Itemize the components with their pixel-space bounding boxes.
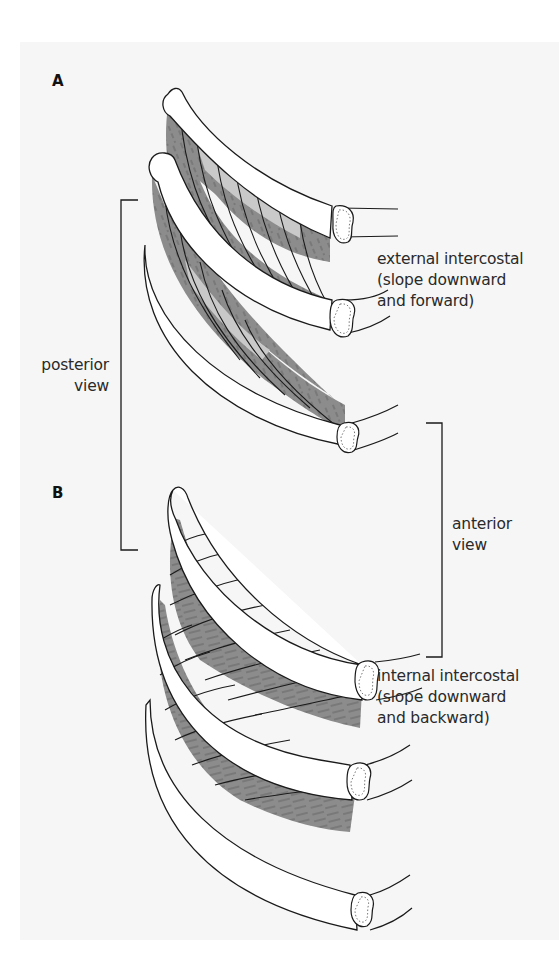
internal-intercostal-label: internal intercostal (slope downward and…: [377, 666, 519, 729]
rib-a3-cut-end: [337, 422, 359, 452]
external-intercostal-label: external intercostal (slope downward and…: [377, 249, 523, 312]
rib-a2-cut-end: [330, 299, 355, 337]
rib-b3-cut-end: [351, 892, 373, 926]
rib-b2-cut-end: [347, 763, 371, 800]
rib-b1-cut-end: [355, 661, 379, 700]
anterior-view-label: anterior view: [452, 514, 512, 556]
anterior-view-bracket: [426, 423, 442, 657]
rib-a1-cut-end: [333, 206, 353, 243]
intercostal-illustration: [0, 0, 559, 968]
panel-b-letter: B: [52, 484, 63, 502]
posterior-view-bracket: [121, 200, 138, 550]
posterior-view-label: posterior view: [40, 355, 109, 397]
panel-a-letter: A: [52, 72, 64, 90]
figure-a-external-intercostal: [144, 88, 398, 452]
